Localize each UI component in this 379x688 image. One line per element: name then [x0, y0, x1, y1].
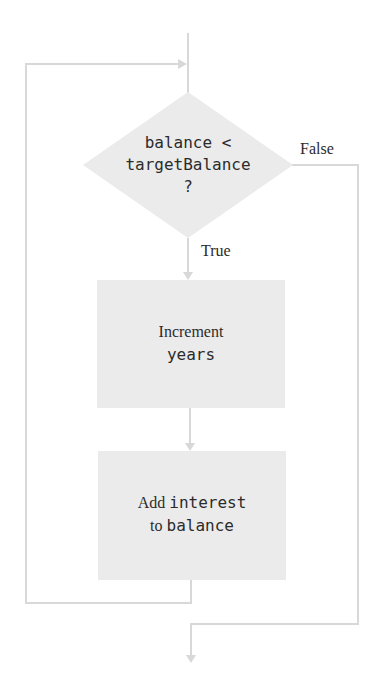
- exit-arrowhead-icon: [186, 655, 196, 663]
- false-exit-connector: [191, 165, 358, 656]
- false-edge-label: False: [300, 140, 334, 158]
- step-1-text-mono: years: [97, 343, 285, 366]
- decision-line-1: balance <: [88, 132, 288, 154]
- loop-arrowhead-icon: [178, 59, 187, 69]
- step-2-text-mono-2: balance: [167, 516, 234, 535]
- step-1-text-serif: Increment: [97, 320, 285, 343]
- true-arrowhead-icon: [183, 272, 193, 280]
- step-2-text-mono-1: interest: [169, 493, 246, 512]
- decision-line-2: targetBalance: [88, 154, 288, 176]
- decision-line-3: ?: [88, 176, 288, 198]
- step-arrowhead-icon: [185, 443, 195, 451]
- step-2-text-serif-2: to: [150, 517, 162, 534]
- step-2-text-serif-1: Add: [138, 494, 166, 511]
- step-1-label: Increment years: [97, 320, 285, 366]
- true-edge-label: True: [201, 242, 231, 260]
- decision-condition: balance < targetBalance ?: [88, 132, 288, 198]
- step-2-label: Add interest to balance: [98, 491, 286, 537]
